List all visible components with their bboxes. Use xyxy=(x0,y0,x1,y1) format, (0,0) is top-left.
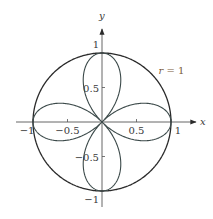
x-tick-label: −0.5 xyxy=(55,125,79,136)
y-tick-label: 1 xyxy=(93,39,99,50)
y-tick-label: −0.5 xyxy=(75,152,99,163)
y-axis-label: y xyxy=(98,10,105,21)
x-axis-label: x xyxy=(200,116,206,127)
annotation-rest: = 1 xyxy=(163,65,184,76)
y-tick-label: −1 xyxy=(84,194,99,205)
circle-equation-label: r = 1 xyxy=(159,65,185,76)
polar-rose-diagram: −1−0.50.5110.5−0.5−1 x y r = 1 xyxy=(0,0,213,219)
x-tick-label: −1 xyxy=(20,125,35,136)
x-tick-label: 1 xyxy=(175,125,181,136)
y-tick-label: 0.5 xyxy=(83,83,99,94)
x-tick-label: 0.5 xyxy=(129,125,145,136)
